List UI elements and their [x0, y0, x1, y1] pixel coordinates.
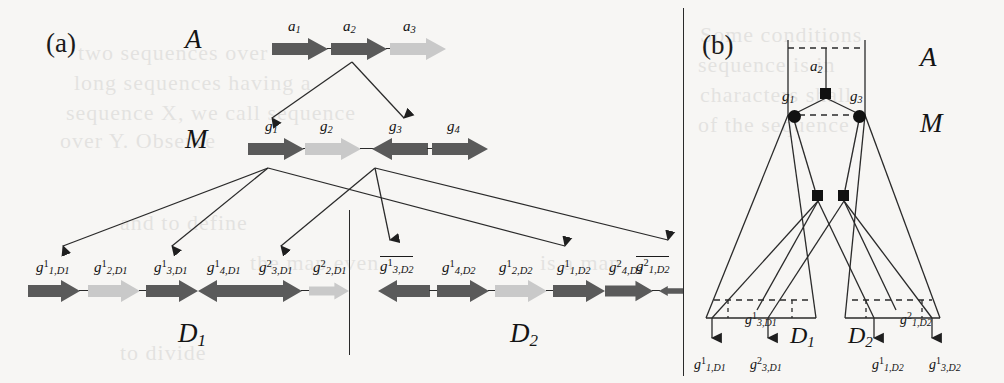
duplication-node-a2: [820, 88, 831, 99]
gene-edge-dup1-leaf3: [818, 201, 874, 318]
duplication-node-left: [812, 190, 823, 201]
gene-edge-g3-dup: [845, 120, 859, 190]
panel-b-geometry: [0, 0, 1004, 383]
duplication-node-right: [838, 190, 849, 201]
gene-node-g1: [788, 110, 801, 123]
species-D1-left: [706, 115, 788, 318]
figure-root: (a) A M a1 a2 a3 g1 g2 g3 g4: [0, 0, 1004, 383]
gene-node-g3: [853, 110, 866, 123]
species-D2-right: [865, 115, 940, 318]
